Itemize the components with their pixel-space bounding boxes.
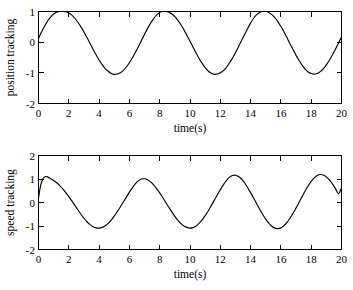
x-tick-labels: 0 2 4 6 8 10 12 14 16 18 20 [36, 107, 348, 119]
position-tracking-plot: 1 0 -1 -2 0 2 4 6 8 10 12 14 16 18 20 ti… [0, 0, 353, 145]
y-tick-label: 1 [30, 6, 36, 18]
x-tick-label: 14 [245, 253, 257, 265]
y-tick-marks [39, 12, 342, 104]
y-tick-label: 0 [30, 197, 36, 209]
x-tick-label: 10 [185, 107, 197, 119]
y-tick-marks [39, 156, 342, 250]
axes-frame [39, 156, 342, 250]
x-tick-label: 6 [127, 253, 133, 265]
x-tick-label: 4 [96, 107, 102, 119]
position-tracking-curve [39, 11, 342, 74]
y-tick-label: -1 [26, 67, 35, 79]
x-tick-marks [69, 12, 311, 104]
y-tick-label: 0 [30, 36, 36, 48]
y-tick-labels: 1 0 -1 -2 [26, 6, 36, 110]
x-tick-label: 4 [96, 253, 102, 265]
y-axis-label: position tracking [4, 18, 17, 96]
x-axis-label: time(s) [174, 268, 207, 281]
x-tick-label: 2 [66, 107, 72, 119]
x-tick-label: 20 [336, 253, 348, 265]
x-tick-label: 6 [127, 107, 133, 119]
x-axis-label: time(s) [174, 122, 207, 135]
speed-tracking-curve [39, 175, 342, 229]
x-tick-label: 18 [306, 107, 318, 119]
y-tick-label: -2 [26, 244, 35, 256]
x-tick-label: 14 [245, 107, 257, 119]
panel-position-tracking: 1 0 -1 -2 0 2 4 6 8 10 12 14 16 18 20 ti… [0, 0, 353, 145]
speed-tracking-plot: 2 1 0 -1 -2 0 2 4 6 8 10 12 14 16 18 20 [0, 145, 353, 290]
x-tick-labels: 0 2 4 6 8 10 12 14 16 18 20 [36, 253, 348, 265]
x-tick-label: 20 [336, 107, 348, 119]
x-tick-label: 12 [215, 107, 226, 119]
y-tick-label: -2 [26, 98, 35, 110]
x-tick-label: 10 [185, 253, 197, 265]
y-tick-label: -1 [26, 220, 35, 232]
x-tick-marks [69, 156, 311, 250]
x-tick-label: 12 [215, 253, 226, 265]
x-tick-label: 16 [275, 107, 287, 119]
y-tick-label: 2 [30, 150, 36, 162]
y-tick-label: 1 [30, 173, 36, 185]
x-tick-label: 0 [36, 253, 42, 265]
x-tick-label: 16 [275, 253, 287, 265]
x-tick-label: 0 [36, 107, 42, 119]
x-tick-label: 8 [157, 253, 163, 265]
axes-frame [39, 12, 342, 104]
x-tick-label: 8 [157, 107, 163, 119]
y-tick-labels: 2 1 0 -1 -2 [26, 150, 36, 256]
x-tick-label: 18 [306, 253, 318, 265]
y-axis-label: speed tracking [4, 169, 17, 236]
panel-speed-tracking: 2 1 0 -1 -2 0 2 4 6 8 10 12 14 16 18 20 [0, 145, 353, 290]
x-tick-label: 2 [66, 253, 72, 265]
figure-container: 1 0 -1 -2 0 2 4 6 8 10 12 14 16 18 20 ti… [0, 0, 353, 290]
